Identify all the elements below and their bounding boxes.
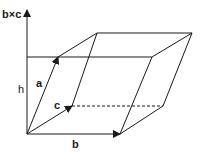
vector-c <box>27 106 72 134</box>
label-a: a <box>36 78 42 89</box>
label-b: b <box>72 139 79 150</box>
label-c: c <box>54 100 60 111</box>
label-h: h <box>18 84 24 95</box>
parallelepiped-diagram <box>0 0 204 160</box>
vector-a <box>27 57 58 134</box>
label-bxc: b×c <box>2 9 21 20</box>
